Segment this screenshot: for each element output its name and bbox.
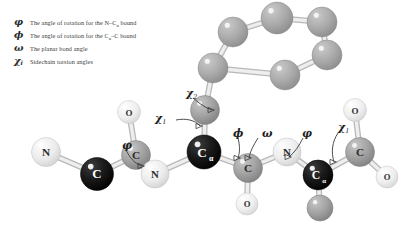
atom-o-right-low: O xyxy=(376,166,398,188)
arrow-chi1-right xyxy=(332,133,338,162)
chi2-label: χ2 xyxy=(186,88,197,100)
atom-n-center-label: N xyxy=(151,168,159,180)
legend-row-phi: φ The angle of rotation for the N–Cα bou… xyxy=(14,16,244,29)
atom-c-left-label: C xyxy=(132,149,140,161)
atom-c-right: C xyxy=(346,138,375,167)
legend-symbol-chi-sub: i xyxy=(21,59,23,66)
legend: φ The angle of rotation for the N–Cα bou… xyxy=(14,16,244,68)
atom-o-right-top-label: O xyxy=(352,106,359,116)
phi-label-left-base: φ xyxy=(122,139,132,152)
atom-ca-left: C xyxy=(81,158,114,191)
phi-label-right: φ xyxy=(302,128,312,139)
diagram-canvas: NCCONCαCONCαCOO φ The angle of rotation … xyxy=(0,0,406,227)
phi-label-right-base: φ xyxy=(302,127,312,140)
atom-ca-center-sublabel: α xyxy=(209,154,214,163)
legend-symbol-phi: φ xyxy=(14,16,30,27)
legend-row-omega: ω The planar bond angle xyxy=(14,42,244,55)
arrow-psi-center xyxy=(238,138,240,158)
ring-c6-highlight xyxy=(277,66,282,71)
atom-n-center: N xyxy=(141,160,169,188)
chi2-label-sub: 2 xyxy=(193,93,197,101)
atom-o-right-top: O xyxy=(344,99,367,122)
atom-ca-right-label: C xyxy=(312,169,320,182)
atom-o-left-label: O xyxy=(126,108,133,118)
atom-o-center-label: O xyxy=(244,199,251,209)
ring-c4-sphere xyxy=(307,7,337,37)
atom-n-left: N xyxy=(32,138,61,167)
legend-text-omega: The planar bond angle xyxy=(30,45,88,52)
atom-cb-right-sphere xyxy=(307,195,333,221)
legend-row-chi: χi Sidechain torsion angles xyxy=(14,55,244,68)
atom-n-right: N xyxy=(273,138,301,166)
legend-symbol-psi: ϕ xyxy=(14,29,30,40)
chi1-label-left: χ1 xyxy=(155,113,166,125)
chi1-label-right-sub: 1 xyxy=(345,127,349,135)
legend-text-psi-post: –C bound xyxy=(111,32,136,39)
atom-cb-right xyxy=(307,195,333,221)
legend-text-chi-pre: Sidechain torsion angles xyxy=(30,58,93,65)
ring-c5 xyxy=(312,40,342,70)
ring-c5-highlight xyxy=(319,46,324,51)
atom-o-center: O xyxy=(236,193,258,215)
ring-c3-sphere xyxy=(261,2,293,34)
atom-ca-right: Cα xyxy=(303,160,333,190)
psi-label-center: ϕ xyxy=(233,128,243,139)
legend-text-psi-pre: The angle of rotation for the C xyxy=(30,32,109,39)
legend-text-psi: The angle of rotation for the Cα–C bound xyxy=(30,32,136,41)
atom-ca-right-sublabel: α xyxy=(322,177,326,184)
legend-row-psi: ϕ The angle of rotation for the Cα–C bou… xyxy=(14,29,244,42)
atom-cb-right-highlight xyxy=(313,200,317,204)
atom-n-left-label: N xyxy=(42,146,51,158)
omega-label-base: ω xyxy=(262,127,272,140)
legend-text-chi: Sidechain torsion angles xyxy=(30,58,93,65)
psi-label-center-base: ϕ xyxy=(233,127,243,140)
atom-ca-center: Cα xyxy=(187,135,221,169)
ring-c6 xyxy=(270,60,300,90)
atom-c-right-label: C xyxy=(356,146,364,158)
legend-symbol-omega: ω xyxy=(14,42,30,53)
legend-text-phi: The angle of rotation for the N–Cα bound xyxy=(30,19,137,28)
ring-c4-highlight xyxy=(314,13,319,18)
ring-c4 xyxy=(307,7,337,37)
chi1-label-left-sub: 1 xyxy=(162,118,166,126)
atom-o-left: O xyxy=(118,101,141,124)
phi-label-left: φ xyxy=(122,140,132,151)
omega-label: ω xyxy=(262,128,272,139)
ring-c5-sphere xyxy=(312,40,342,70)
ring-c3 xyxy=(261,2,293,34)
atom-o-right-low-label: O xyxy=(384,172,391,182)
atom-c-center-label: C xyxy=(244,162,252,174)
legend-symbol-chi-base: χ xyxy=(14,55,21,66)
legend-text-phi-post: bound xyxy=(119,19,137,26)
atom-ca-center-label: C xyxy=(197,145,207,160)
ring-c3-highlight xyxy=(268,8,273,13)
legend-text-omega-pre: The planar bond angle xyxy=(30,45,88,52)
chi1-label-right: χ1 xyxy=(338,122,349,134)
ring-c6-sphere xyxy=(270,60,300,90)
legend-symbol-chi: χi xyxy=(14,55,30,66)
atom-ca-left-label: C xyxy=(92,167,101,181)
legend-text-phi-pre: The angle of rotation for the N–C xyxy=(30,19,116,26)
